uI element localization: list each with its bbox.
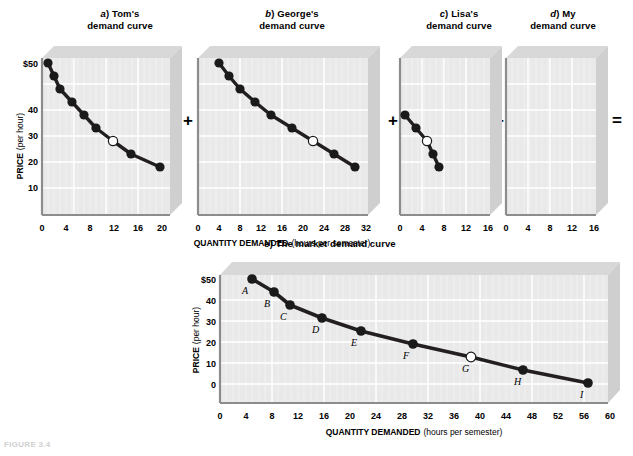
panel-e-xtick-13: 52 <box>553 411 563 421</box>
panel-d-xtick-2: 8 <box>547 223 552 233</box>
panel-c-xtick-3: 12 <box>461 223 471 233</box>
panel-e-svg: A B C D E F G H I $50 40 30 20 10 0 0 4 … <box>185 258 633 453</box>
panel-a-ytick-3: 20 <box>28 157 38 167</box>
panel-a-name: Tom's <box>112 8 139 19</box>
panel-a-xtick-1: 4 <box>63 223 68 233</box>
panel-d-xtick-3: 12 <box>567 223 577 233</box>
panel-e-xtick-4: 16 <box>319 411 329 421</box>
market-label-A: A <box>241 285 249 296</box>
panel-e-xtick-7: 28 <box>397 411 407 421</box>
market-point-D <box>317 313 327 323</box>
panel-b-xtick-0: 0 <box>195 223 200 233</box>
panel-e-ytick-2: 30 <box>206 317 216 327</box>
panel-e-xtick-12: 48 <box>527 411 537 421</box>
panel-b-x-axis-label: QUANTITY DEMANDED(hours per semester) <box>194 238 371 248</box>
panel-a-xtick-3: 12 <box>109 223 119 233</box>
panel-b-xtick-2: 8 <box>237 223 242 233</box>
panel-a-title-line1: a) Tom's <box>101 8 140 19</box>
panel-e-xtick-3: 12 <box>293 411 303 421</box>
panel-b-title-line1: b) George's <box>265 8 319 19</box>
market-label-B: B <box>264 298 270 309</box>
panel-e-ytick-0: $50 <box>201 275 216 285</box>
panel-d-xtick-1: 4 <box>525 223 530 233</box>
figure-caption: FIGURE 3.4 <box>4 440 51 449</box>
panel-b-subtitle: demand curve <box>259 20 325 31</box>
panel-a-ytick-0: $50 <box>23 59 38 69</box>
panel-d-side-face <box>596 46 608 215</box>
market-label-I: I <box>579 389 584 400</box>
panel-b-xtick-3: 12 <box>256 223 266 233</box>
panel-e-xtick-11: 44 <box>501 411 511 421</box>
panel-e-xtick-1: 4 <box>243 411 248 421</box>
panel-a-y-axis-label: PRICE(per hour) <box>15 113 25 179</box>
panel-b-xtick-4: 16 <box>277 223 287 233</box>
panel-a-title: a) Tom's demand curve <box>60 8 180 31</box>
panel-c-xtick-2: 8 <box>441 223 446 233</box>
panel-e-xtick-6: 24 <box>371 411 381 421</box>
market-point-G <box>466 352 476 362</box>
panel-a-side-face <box>170 46 182 215</box>
panel-c-svg: 0 4 8 12 16 <box>398 38 508 218</box>
market-point-C <box>285 300 295 310</box>
market-label-D: D <box>311 324 320 335</box>
panel-e-xtick-2: 8 <box>269 411 274 421</box>
panel-b-name: George's <box>277 8 319 19</box>
panel-a-ytick-1: 40 <box>28 105 38 115</box>
panel-b-chart: 0 4 8 12 16 20 24 28 32 QUANTITY DEMANDE… <box>196 38 386 218</box>
panel-d-xtick-0: 0 <box>503 223 508 233</box>
panel-a-chart: $50 40 30 20 10 0 4 8 12 16 20 PRICE(per… <box>12 38 187 218</box>
panel-d-title: d) My demand curve <box>508 8 618 31</box>
panel-e-xtick-10: 40 <box>475 411 485 421</box>
panel-c-subtitle: demand curve <box>426 20 492 31</box>
panel-e-ytick-1: 40 <box>206 296 216 306</box>
panel-e-side-face <box>608 262 620 403</box>
panel-b-xtick-6: 24 <box>319 223 329 233</box>
market-label-E: E <box>350 337 357 348</box>
panel-e-xtick-0: 0 <box>217 411 222 421</box>
market-point-E <box>356 326 366 336</box>
operator-plus-2: + <box>388 112 398 129</box>
panel-e-top-face <box>220 262 620 275</box>
panel-a-ytick-4: 10 <box>28 183 38 193</box>
panel-a-xtick-0: 0 <box>39 223 44 233</box>
market-label-C: C <box>280 311 287 322</box>
panel-c-name: Lisa's <box>451 8 478 19</box>
panel-d-top-face <box>506 46 608 58</box>
panel-c-title: c) Lisa's demand curve <box>404 8 514 31</box>
panel-a-xtick-2: 8 <box>87 223 92 233</box>
panel-e-chart: A B C D E F G H I $50 40 30 20 10 0 0 4 … <box>185 258 633 453</box>
market-point-H <box>518 365 528 375</box>
panel-c-xtick-1: 4 <box>419 223 424 233</box>
panel-a-xtick-4: 16 <box>133 223 143 233</box>
figure-root: a) Tom's demand curve b) George's demand… <box>0 0 633 456</box>
panel-c-xtick-0: 0 <box>397 223 402 233</box>
panel-c-side-face <box>490 46 502 215</box>
panel-c-top-face <box>400 46 502 58</box>
panel-b-top-face <box>198 46 380 58</box>
panel-e-xtick-9: 36 <box>449 411 459 421</box>
panel-b-xtick-1: 4 <box>216 223 221 233</box>
panel-e-xtick-14: 56 <box>579 411 589 421</box>
panel-d-chart: 0 4 8 12 16 <box>504 38 614 218</box>
market-point-B <box>269 287 279 297</box>
panel-b-title: b) George's demand curve <box>232 8 352 31</box>
panel-e-x-axis-label: QUANTITY DEMANDED(hours per semester) <box>326 427 503 437</box>
panel-a-ytick-2: 30 <box>28 131 38 141</box>
panel-e-ytick-4: 10 <box>206 359 216 369</box>
market-point-A <box>247 274 257 284</box>
panel-c-xtick-4: 16 <box>483 223 493 233</box>
market-point-F <box>408 339 418 349</box>
market-point-I <box>583 378 593 388</box>
panel-d-subtitle: demand curve <box>530 20 596 31</box>
panel-e-y-axis-label: PRICE(per hour) <box>191 307 201 373</box>
panel-b-xtick-8: 32 <box>361 223 371 233</box>
panel-e-ytick-3: 20 <box>206 338 216 348</box>
panel-d-svg: 0 4 8 12 16 <box>504 38 614 218</box>
panel-b-side-face <box>368 46 380 215</box>
market-label-H: H <box>513 376 522 387</box>
panel-a-subtitle: demand curve <box>87 20 153 31</box>
panel-b-xtick-5: 20 <box>298 223 308 233</box>
panel-e-xtick-5: 20 <box>345 411 355 421</box>
panel-c-title-line1: c) Lisa's <box>440 8 479 19</box>
panel-d-title-line1: d) My <box>550 8 575 19</box>
